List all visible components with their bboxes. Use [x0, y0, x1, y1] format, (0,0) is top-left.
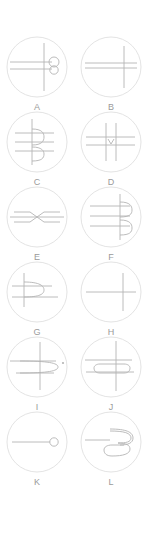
panel-e-disc — [6, 186, 68, 248]
panel-l-disc — [80, 411, 142, 473]
panel-l: L — [74, 411, 148, 499]
curve-group-h — [86, 273, 136, 311]
panel-f-disc — [80, 186, 142, 248]
curve-group-g — [12, 273, 58, 307]
curve-group-c — [15, 119, 54, 165]
panel-a-disc — [6, 36, 68, 98]
panel-k: K — [0, 411, 74, 499]
panel-j-disc — [80, 336, 142, 398]
panel-g-disc — [6, 261, 68, 323]
panel-b-disc — [80, 36, 142, 98]
curve-group-e — [10, 212, 64, 222]
curve-group-l — [85, 429, 133, 456]
disc-outline — [81, 112, 141, 172]
curve-group-a — [10, 43, 59, 91]
curve-group-b — [85, 46, 137, 88]
panel-label-k: K — [0, 477, 74, 488]
disc-outline — [81, 187, 141, 247]
disc-outline — [81, 337, 141, 397]
panel-h-disc — [80, 261, 142, 323]
curve-group-d — [86, 123, 135, 161]
figure-sheet: A B — [0, 0, 149, 535]
panel-c-disc — [6, 111, 68, 173]
disc-outline — [7, 37, 67, 97]
curve-group-f — [90, 194, 132, 240]
panel-i-disc — [6, 336, 68, 398]
disc-outline — [81, 37, 141, 97]
panel-label-l: L — [74, 477, 148, 488]
curve-group-k — [12, 438, 58, 446]
curve-group-j — [85, 341, 134, 391]
panel-k-disc — [6, 411, 68, 473]
panel-d-disc — [80, 111, 142, 173]
curve-group-i — [10, 342, 64, 390]
marker-dot-icon — [62, 362, 64, 364]
disc-outline — [7, 262, 67, 322]
